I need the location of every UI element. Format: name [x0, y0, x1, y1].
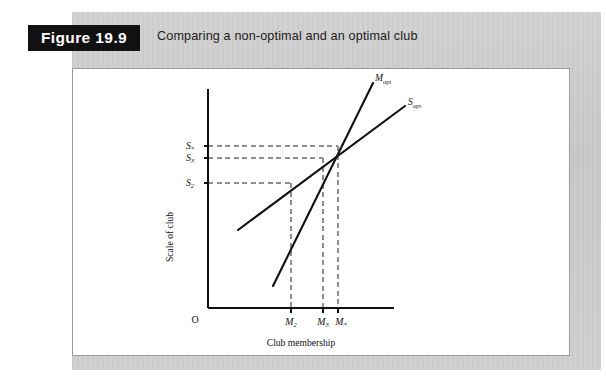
x-tick-label-m-star: M*: [334, 316, 347, 328]
chart-panel: Mopt Sopt S* S3 S2 M2 M3 M*: [72, 68, 570, 356]
curve-label-s-opt: Sopt: [408, 96, 421, 109]
figure-caption: Comparing a non-optimal and an optimal c…: [157, 29, 418, 43]
figure-number-badge: Figure 19.9: [28, 25, 140, 51]
y-axis-title: Scale of club: [164, 212, 175, 262]
curve-label-m-opt: Mopt: [374, 72, 391, 85]
y-tick-label-s2: S2: [186, 177, 195, 189]
figure-page: Figure 19.9 Comparing a non-optimal and …: [0, 0, 606, 390]
axes: [208, 89, 394, 308]
x-axis-ticks: [291, 308, 338, 313]
x-tick-label-m3: M3: [316, 316, 329, 328]
curve-s-opt: [238, 106, 405, 230]
y-tick-label-s3: S3: [186, 152, 195, 164]
curves: [238, 83, 405, 286]
curve-label-m-opt-sub: opt: [383, 78, 391, 85]
y-tick-label-s-star: S*: [186, 140, 195, 152]
curve-label-s-opt-sub: opt: [413, 102, 421, 109]
origin-label: O: [191, 314, 198, 325]
chart-svg: Mopt Sopt S* S3 S2 M2 M3 M*: [73, 69, 571, 357]
x-tick-label-m2: M2: [284, 316, 297, 328]
x-axis-title: Club membership: [267, 337, 336, 348]
